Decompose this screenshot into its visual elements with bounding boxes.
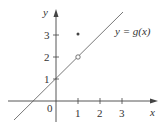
g-line — [14, 12, 123, 120]
open-circle-point — [76, 55, 80, 59]
filled-dot-point — [77, 33, 80, 36]
x-axis-label: x — [149, 106, 155, 118]
graph-canvas: y x 0 1 2 3 1 2 3 y = g(x) — [0, 0, 163, 127]
y-tick-label-3: 3 — [44, 29, 50, 41]
y-tick-label-2: 2 — [44, 51, 50, 63]
x-tick-label-3: 3 — [119, 107, 125, 119]
curve-label: y = g(x) — [114, 25, 151, 38]
x-axis-arrow-icon — [150, 99, 158, 104]
y-axis-label: y — [42, 6, 48, 18]
origin-label: 0 — [47, 102, 53, 114]
x-tick-label-1: 1 — [75, 107, 81, 119]
x-tick-label-2: 2 — [97, 107, 103, 119]
y-axis-arrow-icon — [54, 9, 59, 17]
function-graph: y x 0 1 2 3 1 2 3 y = g(x) — [0, 0, 163, 127]
y-tick-label-1: 1 — [44, 73, 50, 85]
